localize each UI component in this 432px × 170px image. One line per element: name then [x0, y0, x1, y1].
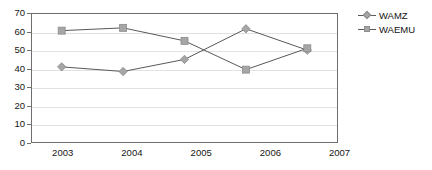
y-axis-tick-mark	[27, 87, 31, 88]
y-axis-tick-mark	[27, 50, 31, 51]
y-axis-tick-mark	[27, 124, 31, 125]
y-axis-tick-mark	[27, 13, 31, 14]
y-axis-tick-mark	[27, 69, 31, 70]
gridline	[32, 107, 337, 108]
line-chart: 70 60 50 40 30 20 10 0 2003 2004 2005 20…	[0, 0, 432, 170]
legend-item-wamz[interactable]: WAMZ	[358, 9, 430, 21]
y-axis-tick-label: 10	[3, 119, 25, 128]
legend-label: WAEMU	[379, 24, 415, 35]
y-axis-tick-label: 70	[3, 8, 25, 17]
legend-label: WAMZ	[379, 10, 408, 21]
gridline	[32, 125, 337, 126]
x-axis-tick-label: 2005	[178, 148, 224, 158]
y-axis-tick-label: 40	[3, 64, 25, 73]
diamond-marker-icon	[358, 9, 376, 21]
gridline	[32, 70, 337, 71]
x-axis-tick-label: 2004	[109, 148, 155, 158]
square-marker-icon	[358, 23, 376, 35]
legend: WAMZ WAEMU	[358, 9, 430, 37]
x-axis-tick-label: 2006	[247, 148, 293, 158]
legend-item-waemu[interactable]: WAEMU	[358, 23, 430, 35]
y-axis-tick-mark	[27, 106, 31, 107]
y-axis-tick-label: 0	[3, 138, 25, 147]
gridline	[32, 51, 337, 52]
plot-area	[31, 13, 338, 143]
y-axis-tick-label: 50	[3, 45, 25, 54]
y-axis-tick-mark	[27, 143, 31, 144]
gridline	[32, 88, 337, 89]
y-axis-tick-mark	[27, 32, 31, 33]
y-axis-tick-label: 20	[3, 101, 25, 110]
y-axis-tick-label: 30	[3, 82, 25, 91]
x-axis-tick-label: 2007	[317, 148, 363, 158]
x-axis-tick-label: 2003	[40, 148, 86, 158]
gridline	[32, 33, 337, 34]
y-axis-tick-label: 60	[3, 27, 25, 36]
